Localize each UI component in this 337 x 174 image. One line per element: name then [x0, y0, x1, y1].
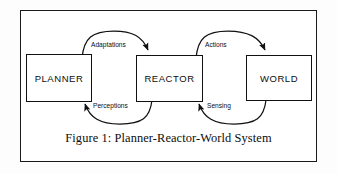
- node-reactor-label: REACTOR: [144, 73, 194, 84]
- node-planner-label: PLANNER: [35, 73, 84, 84]
- edge-label-perceptions: Perceptions: [92, 102, 129, 110]
- figure-root: PLANNER REACTOR WORLD Adaptations Percep…: [0, 0, 337, 174]
- node-world: WORLD: [246, 55, 312, 101]
- edge-label-sensing: Sensing: [206, 102, 232, 110]
- edge-label-actions: Actions: [204, 41, 228, 49]
- figure-caption: Figure 1: Planner-Reactor-World System: [20, 131, 317, 146]
- edge-label-adaptations: Adaptations: [90, 41, 127, 49]
- node-reactor: REACTOR: [136, 55, 203, 102]
- node-planner: PLANNER: [26, 54, 92, 102]
- node-world-label: WORLD: [260, 73, 298, 84]
